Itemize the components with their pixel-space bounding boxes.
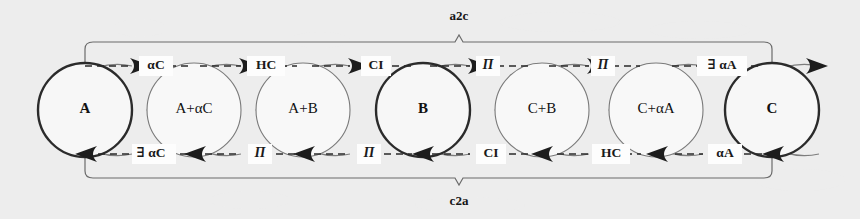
node-label-A-aC: A+αC (175, 100, 212, 116)
forward-edge-label-4: Π (597, 57, 610, 72)
diagram-canvas: a2c c2a (0, 0, 860, 219)
backward-edge-label-3: CI (483, 145, 498, 160)
bracket-a2c-label: a2c (450, 8, 469, 23)
forward-edge-label-5: ∃ αA (707, 57, 736, 72)
backward-edge-label-2: Π (363, 145, 376, 160)
backward-edge-label-1: Π (254, 145, 267, 160)
node-label-A: A (80, 100, 91, 116)
node-label-C-B: C+B (528, 100, 556, 116)
state-transition-diagram: a2c c2a (0, 0, 860, 219)
node-label-C-aA: C+αA (637, 100, 674, 116)
forward-edge-label-0: αC (147, 57, 164, 72)
backward-edge-label-0: ∃ αC (136, 145, 165, 160)
bracket-c2a-label: c2a (450, 193, 469, 208)
forward-edge-label-3: Π (482, 57, 495, 72)
node-label-C: C (767, 100, 778, 116)
backward-edge-label-5: αA (716, 145, 734, 160)
node-label-A-B: A+B (288, 100, 317, 116)
node-label-B: B (418, 100, 428, 116)
forward-edge-label-2: CI (368, 57, 383, 72)
backward-edge-label-4: HC (601, 145, 621, 160)
forward-edge-label-1: HC (256, 57, 276, 72)
